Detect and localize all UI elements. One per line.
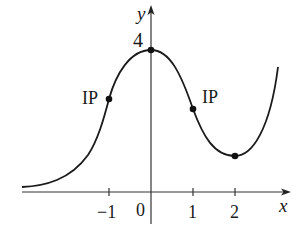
x-tick-label-0: 0 (136, 200, 145, 220)
x-axis-label: x (278, 195, 288, 216)
ip-label-left: IP (82, 88, 98, 108)
function-curve (22, 50, 278, 187)
x-tick-label-2: 2 (230, 202, 239, 222)
x-tick-label-neg1: −1 (97, 202, 116, 222)
y-axis-label: y (135, 3, 146, 24)
x-axis (22, 189, 291, 196)
inflection-point-right (190, 106, 197, 113)
x-tick-label-1: 1 (188, 202, 197, 222)
ip-label-right: IP (202, 87, 218, 107)
local-min-point (232, 153, 239, 160)
y-tick-label-4: 4 (133, 29, 143, 51)
chart-svg: y x 4 −1 0 1 2 IP IP (0, 0, 305, 236)
y-axis (148, 5, 155, 224)
local-max-point (148, 47, 155, 54)
inflection-point-left (106, 96, 113, 103)
graph-figure: y x 4 −1 0 1 2 IP IP (0, 0, 305, 236)
